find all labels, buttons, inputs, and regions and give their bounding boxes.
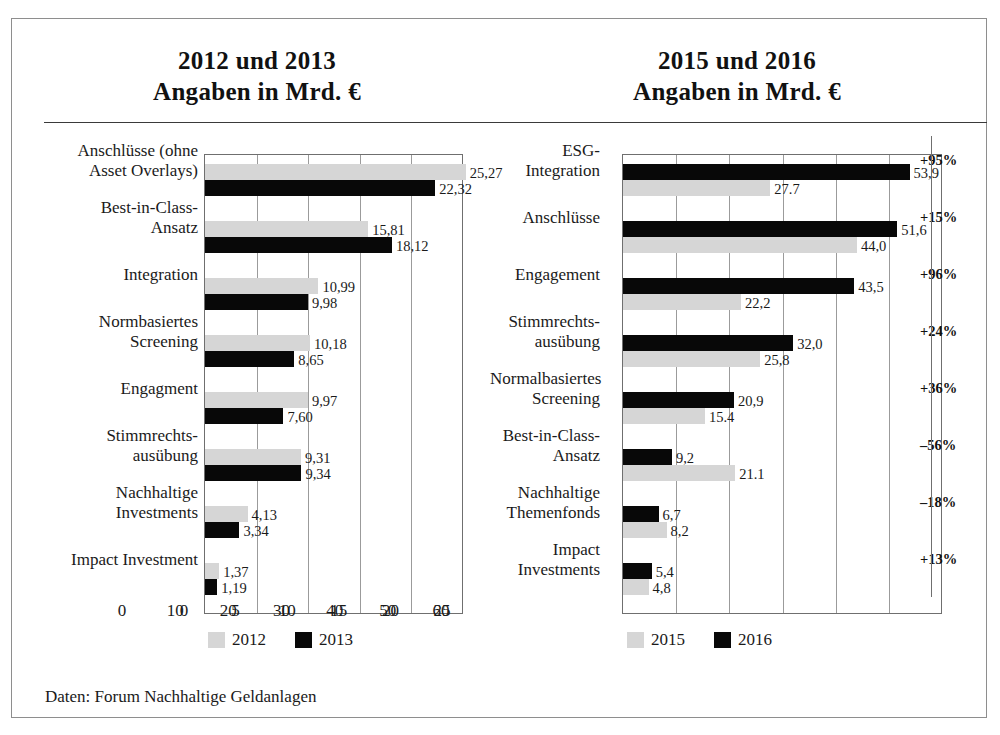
bar-2016-2 (623, 221, 897, 237)
bar-2013-1 (205, 180, 435, 196)
bar-2012-4 (205, 335, 310, 351)
bar-2016-8 (623, 563, 652, 579)
category-label-8: Impact Investment (26, 550, 198, 570)
category-label-line: Nachhaltige (26, 483, 198, 503)
value-label: 9,97 (312, 393, 337, 409)
value-label: 8,65 (298, 352, 323, 368)
change-annotation-1: +95% (920, 152, 957, 169)
category-label-6: Best-in-Class-Ansatz (490, 426, 600, 466)
value-label: 20,9 (738, 393, 763, 409)
value-label: 1,19 (221, 580, 246, 596)
category-label-1: ESG-Integration (490, 141, 600, 181)
bar-2013-4 (205, 351, 294, 367)
left-title-line-2: Angaben in Mrd. € (42, 76, 472, 107)
x-tick-label: 20 (208, 601, 248, 621)
right-title-line-2: Angaben in Mrd. € (512, 76, 962, 107)
bar-2016-7 (623, 506, 659, 522)
change-annotation-7: –18% (920, 494, 956, 511)
bar-2013-7 (205, 522, 239, 538)
category-label-line: Integration (490, 161, 600, 181)
bar-2015-7 (623, 522, 667, 538)
category-label-7: NachhaltigeInvestments (26, 483, 198, 523)
title-divider-rule (44, 122, 987, 123)
bar-2016-1 (623, 164, 910, 180)
value-label: 18,12 (396, 238, 429, 254)
legend-swatch-2015 (627, 632, 644, 648)
category-label-4: Stimmrechts-ausübung (490, 312, 600, 352)
bar-2013-2 (205, 237, 392, 253)
value-label: 22,32 (439, 181, 472, 197)
change-annotation-8: +13% (920, 551, 957, 568)
category-label-line: Themenfonds (490, 503, 600, 523)
category-label-line: Impact (490, 540, 600, 560)
value-label: 22,2 (745, 295, 770, 311)
x-tick-label: 0 (102, 601, 142, 621)
category-label-line: Ansatz (26, 218, 198, 238)
category-label-line: Anschlüsse (ohne (26, 141, 198, 161)
category-label-line: Investments (490, 560, 600, 580)
category-label-line: Best-in-Class- (26, 198, 198, 218)
value-label: 25,8 (764, 352, 789, 368)
category-label-line: Ansatz (490, 446, 600, 466)
category-label-3: Integration (26, 265, 198, 285)
value-label: 10,18 (314, 336, 347, 352)
value-label: 32,0 (797, 336, 822, 352)
category-label-line: Stimmrechts- (26, 426, 198, 446)
value-label: 5,4 (656, 564, 674, 580)
value-label: 43,5 (858, 279, 883, 295)
value-label: 15.4 (709, 409, 734, 425)
category-label-line: Integration (26, 265, 198, 285)
bar-2016-6 (623, 449, 672, 465)
value-label: 27.7 (774, 181, 799, 197)
category-label-line: Normbasiertes (26, 312, 198, 332)
left-plot-area: 25,2722,3215,8118,1210,999,9810,188,659,… (204, 154, 463, 614)
x-tick-label: 30 (262, 601, 302, 621)
category-label-6: Stimmrechts-ausübung (26, 426, 198, 466)
value-label: 10,99 (322, 279, 355, 295)
figure-frame: 2012 und 2013 Angaben in Mrd. € 2015 und… (11, 18, 987, 718)
value-label: 8,2 (671, 523, 689, 539)
category-label-line: ausübung (26, 446, 198, 466)
change-annotation-3: +96% (920, 266, 957, 283)
value-label: 9,31 (305, 450, 330, 466)
category-label-4: NormbasiertesScreening (26, 312, 198, 352)
x-tick-label: 60 (421, 601, 461, 621)
category-label-line: Impact Investment (26, 550, 198, 570)
bar-2012-5 (205, 392, 308, 408)
bar-2016-4 (623, 335, 793, 351)
bar-2012-6 (205, 449, 301, 465)
value-label: 15,81 (372, 222, 405, 238)
category-label-line: Anschlüsse (490, 208, 600, 228)
right-plot-area: 53,927.751,644,043,522,232,025,820,915.4… (622, 154, 942, 614)
value-label: 3,34 (243, 523, 268, 539)
bar-2013-5 (205, 408, 283, 424)
bar-2015-5 (623, 408, 705, 424)
value-label: 1,37 (223, 564, 248, 580)
left-chart-title: 2012 und 2013 Angaben in Mrd. € (42, 45, 472, 107)
bar-2015-4 (623, 351, 760, 367)
value-label: 44,0 (861, 238, 886, 254)
value-label: 4,8 (653, 580, 671, 596)
legend-swatch-2012 (208, 632, 225, 648)
left-chart-legend: 20122013 (208, 630, 375, 650)
left-title-line-1: 2012 und 2013 (42, 45, 472, 76)
category-label-line: ausübung (490, 332, 600, 352)
value-label: 9,34 (305, 466, 330, 482)
category-label-7: NachhaltigeThemenfonds (490, 483, 600, 523)
category-label-line: Engagment (26, 379, 198, 399)
legend-label-2013: 2013 (319, 630, 353, 650)
bar-2012-3 (205, 278, 318, 294)
value-label: 7,60 (287, 409, 312, 425)
category-label-line: Asset Overlays) (26, 161, 198, 181)
category-label-line: Engagement (490, 265, 600, 285)
legend-label-2016: 2016 (738, 630, 772, 650)
bar-2013-8 (205, 579, 217, 595)
legend-swatch-2013 (295, 632, 312, 648)
bar-2015-3 (623, 294, 741, 310)
right-title-line-1: 2015 und 2016 (512, 45, 962, 76)
change-annotation-6: –56% (920, 437, 956, 454)
legend-label-2015: 2015 (651, 630, 685, 650)
value-label: 9,98 (312, 295, 337, 311)
change-annotation-5: +36% (920, 380, 957, 397)
category-label-line: Screening (26, 332, 198, 352)
